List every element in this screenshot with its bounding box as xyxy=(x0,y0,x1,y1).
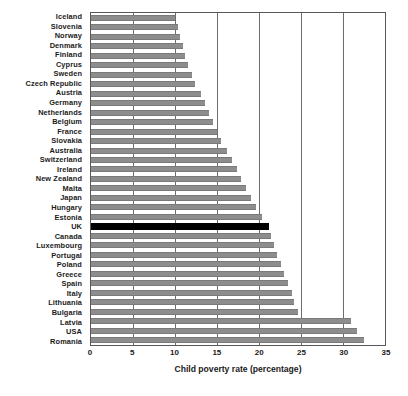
category-label: Norway xyxy=(0,31,86,41)
bar-row xyxy=(91,89,385,98)
bar xyxy=(91,119,213,125)
bar xyxy=(91,148,227,154)
bar xyxy=(91,81,195,87)
bar-row xyxy=(91,117,385,126)
category-label: Austria xyxy=(0,88,86,98)
bar xyxy=(91,129,217,135)
bar-row xyxy=(91,222,385,231)
bar-row xyxy=(91,60,385,69)
bar xyxy=(91,204,256,210)
bar xyxy=(91,195,251,201)
bar-row xyxy=(91,184,385,193)
bar xyxy=(91,299,294,305)
x-tick-label: 5 xyxy=(130,348,134,357)
bar-series xyxy=(91,13,385,345)
bar xyxy=(91,290,292,296)
bar-row xyxy=(91,70,385,79)
bar xyxy=(91,318,351,324)
category-label: Ireland xyxy=(0,165,86,175)
category-label: Spain xyxy=(0,279,86,289)
bar-highlighted xyxy=(91,223,269,230)
category-label: Australia xyxy=(0,146,86,156)
bar xyxy=(91,280,288,286)
category-label: Japan xyxy=(0,193,86,203)
bar xyxy=(91,53,185,59)
x-tick-label: 20 xyxy=(255,348,264,357)
bar-row xyxy=(91,51,385,60)
category-label: Latvia xyxy=(0,318,86,328)
bar xyxy=(91,271,284,277)
child-poverty-bar-chart: IcelandSloveniaNorwayDenmarkFinlandCypru… xyxy=(0,0,408,396)
category-label: Iceland xyxy=(0,12,86,22)
bar-row xyxy=(91,231,385,240)
bar-row xyxy=(91,250,385,259)
category-label: Czech Republic xyxy=(0,79,86,89)
bar-row xyxy=(91,269,385,278)
category-label-column: IcelandSloveniaNorwayDenmarkFinlandCypru… xyxy=(0,12,86,346)
bar xyxy=(91,309,298,315)
bar xyxy=(91,100,205,106)
bar-row xyxy=(91,298,385,307)
category-label: Slovakia xyxy=(0,136,86,146)
category-label: Luxembourg xyxy=(0,241,86,251)
category-label: Switzerland xyxy=(0,155,86,165)
x-tick-label: 30 xyxy=(339,348,348,357)
bar xyxy=(91,233,271,239)
category-label: Finland xyxy=(0,50,86,60)
bar xyxy=(91,91,201,97)
bar-row xyxy=(91,174,385,183)
bar-row xyxy=(91,317,385,326)
bar-row xyxy=(91,165,385,174)
bar xyxy=(91,43,183,49)
bar xyxy=(91,24,178,30)
bar xyxy=(91,337,364,343)
plot-area xyxy=(90,12,386,346)
category-label: Estonia xyxy=(0,212,86,222)
bar-row xyxy=(91,41,385,50)
category-label: Poland xyxy=(0,260,86,270)
bar-row xyxy=(91,203,385,212)
bar-row xyxy=(91,108,385,117)
bar xyxy=(91,15,175,21)
bar xyxy=(91,242,274,248)
category-label: Cyprus xyxy=(0,60,86,70)
category-label: Denmark xyxy=(0,41,86,51)
x-tick-label: 10 xyxy=(170,348,179,357)
category-label: Germany xyxy=(0,98,86,108)
x-tick-label: 0 xyxy=(88,348,92,357)
category-label: Hungary xyxy=(0,203,86,213)
x-tick-label: 15 xyxy=(212,348,221,357)
bar-row xyxy=(91,127,385,136)
bar-row xyxy=(91,79,385,88)
category-label: Greece xyxy=(0,270,86,280)
category-label: Italy xyxy=(0,289,86,299)
bar-row xyxy=(91,22,385,31)
bar xyxy=(91,110,209,116)
bar xyxy=(91,214,262,220)
category-label: Portugal xyxy=(0,251,86,261)
bar-row xyxy=(91,288,385,297)
bar xyxy=(91,328,357,334)
bar-row xyxy=(91,279,385,288)
category-label: Malta xyxy=(0,184,86,194)
bar-row xyxy=(91,13,385,22)
x-tick-label: 25 xyxy=(297,348,306,357)
category-label: USA xyxy=(0,327,86,337)
bar xyxy=(91,72,192,78)
bar-row xyxy=(91,260,385,269)
bar xyxy=(91,157,232,163)
category-label: New Zealand xyxy=(0,174,86,184)
x-tick-label: 35 xyxy=(382,348,391,357)
bar-row xyxy=(91,136,385,145)
bar-row xyxy=(91,32,385,41)
bar-row xyxy=(91,193,385,202)
bar-row xyxy=(91,212,385,221)
category-label: Bulgaria xyxy=(0,308,86,318)
x-axis-title: Child poverty rate (percentage) xyxy=(90,364,386,374)
bar xyxy=(91,185,246,191)
bar xyxy=(91,252,277,258)
category-label: Slovenia xyxy=(0,22,86,32)
bar xyxy=(91,261,281,267)
category-label: Romania xyxy=(0,337,86,347)
category-label: Sweden xyxy=(0,69,86,79)
